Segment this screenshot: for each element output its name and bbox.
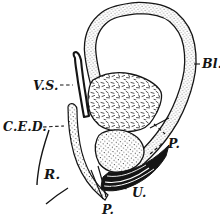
central-gland-mass	[88, 73, 162, 132]
label-bladder: Bl.	[201, 56, 220, 71]
label-prostate: P.	[167, 136, 180, 151]
lower-gland-mass	[95, 130, 144, 173]
label-vesicula-seminalis: V.S.	[33, 78, 59, 93]
figure-canvas: V.S. Bl. C.E.D. R. P. U. P.	[0, 0, 220, 220]
anatomical-figure: V.S. Bl. C.E.D. R. P. U. P.	[0, 0, 220, 220]
label-utricle: U.	[132, 185, 147, 200]
label-common-ejaculatory-duct: C.E.D.	[3, 119, 47, 134]
label-penile-urethra: P.	[101, 202, 114, 217]
label-rectum: R.	[43, 166, 60, 182]
